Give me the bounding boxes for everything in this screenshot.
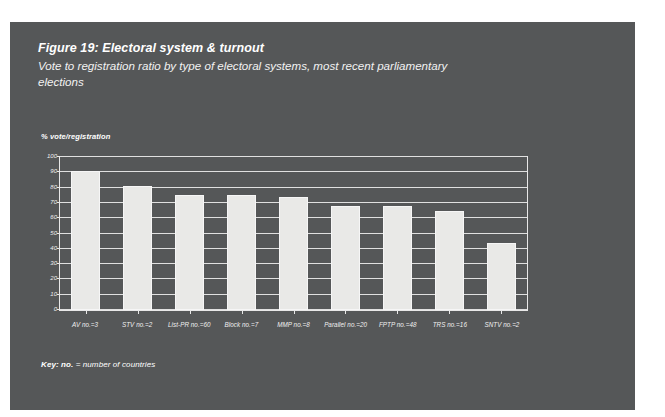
x-axis-tick-mark xyxy=(294,310,295,314)
figure-panel: Figure 19: Electoral system & turnout Vo… xyxy=(10,22,635,410)
bar-chart: 0102030405060708090100 AV no.=3STV no.=2… xyxy=(41,149,538,321)
y-axis-tick-label: 80 xyxy=(50,184,57,190)
x-axis-tick-label: Parallel no.=20 xyxy=(320,321,372,328)
x-axis-tick-mark xyxy=(86,310,87,314)
y-axis-tick-label: 40 xyxy=(50,245,57,251)
y-axis-tick-label: 30 xyxy=(50,260,57,266)
bar[interactable] xyxy=(383,206,412,310)
bar-slot xyxy=(475,157,527,310)
figure-heading: Figure 19: Electoral system & turnout Vo… xyxy=(38,40,598,89)
bar-slot xyxy=(319,157,371,310)
key-label: Key: no. xyxy=(41,360,73,369)
bar-slot xyxy=(216,157,268,310)
y-axis-tick-label: 100 xyxy=(47,153,57,159)
plot-area: 0102030405060708090100 xyxy=(59,156,528,311)
x-axis-tick-mark xyxy=(138,310,139,314)
bar[interactable] xyxy=(71,171,100,310)
bar-slot xyxy=(60,157,112,310)
x-axis-tick-mark xyxy=(501,310,502,314)
x-axis-tick-label: AV no.=3 xyxy=(59,321,111,328)
x-axis-tick-label: SNTV no.=2 xyxy=(476,321,528,328)
bar-series xyxy=(60,157,527,310)
y-axis-tick-label: 90 xyxy=(50,168,57,174)
y-axis-tick-label: 60 xyxy=(50,214,57,220)
y-axis-tick-label: 70 xyxy=(50,199,57,205)
x-axis-tick-labels: AV no.=3STV no.=2List-PR no.=60Block no.… xyxy=(59,321,528,328)
y-axis-tick-label: 50 xyxy=(50,230,57,236)
y-axis-tick-label: 10 xyxy=(50,291,57,297)
bar[interactable] xyxy=(123,186,152,310)
bar-slot xyxy=(268,157,320,310)
x-axis-tick-mark xyxy=(449,310,450,314)
bar[interactable] xyxy=(435,211,464,310)
x-axis-tick-label: STV no.=2 xyxy=(111,321,163,328)
x-axis-tick-mark xyxy=(397,310,398,314)
bar[interactable] xyxy=(487,243,516,310)
y-axis-tick-label: 20 xyxy=(50,275,57,281)
chart-key: Key: no. = number of countries xyxy=(41,360,155,369)
x-axis-tick-mark xyxy=(242,310,243,314)
figure-page: Figure 19: Electoral system & turnout Vo… xyxy=(0,0,665,417)
x-axis-tick-label: Block no.=7 xyxy=(215,321,267,328)
bar[interactable] xyxy=(331,206,360,310)
bar[interactable] xyxy=(227,195,256,310)
key-text: = number of countries xyxy=(73,360,155,369)
bar[interactable] xyxy=(175,195,204,310)
x-axis-tick-mark xyxy=(345,310,346,314)
x-axis-tick-label: MMP no.=8 xyxy=(267,321,319,328)
x-axis-tick-label: TRS no.=16 xyxy=(424,321,476,328)
bar-slot xyxy=(164,157,216,310)
x-axis-tick-label: List-PR no.=60 xyxy=(163,321,215,328)
y-axis-title: % vote/registration xyxy=(41,132,110,141)
bar-slot xyxy=(371,157,423,310)
x-axis-tick-mark xyxy=(190,310,191,314)
x-axis-tick-label: FPTP no.=48 xyxy=(372,321,424,328)
bar-slot xyxy=(112,157,164,310)
page-title: Figure 19: Electoral system & turnout xyxy=(38,40,598,56)
bar-slot xyxy=(423,157,475,310)
figure-subtitle: Vote to registration ratio by type of el… xyxy=(38,58,458,89)
bar[interactable] xyxy=(279,197,308,310)
